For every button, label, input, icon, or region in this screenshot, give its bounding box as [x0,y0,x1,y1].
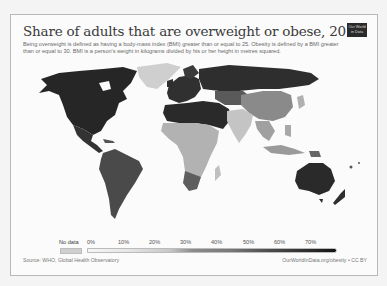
region-south-asia[interactable] [227,109,253,143]
chart-frame: Share of adults that are overweight or o… [10,14,378,276]
legend-tick-60: 60% [274,239,285,245]
region-south-america[interactable] [99,149,143,219]
legend-tick-30: 30% [180,239,191,245]
legend-tick-50: 50% [243,239,254,245]
owid-logo[interactable]: Our World in Data [347,23,367,37]
region-southeast-asia[interactable] [255,121,275,141]
source-note: Source: WHO, Global Health Observatory [23,257,119,263]
legend-color-bar [87,248,337,253]
chart-subtitle: Being overweight is defined as having a … [23,41,341,55]
legend-tick-10: 10% [118,239,129,245]
region-japan[interactable] [297,95,305,109]
legend-no-data-label: No data [59,239,79,245]
credit-link[interactable]: OurWorldInData.org/obesity • CC BY [282,257,367,263]
region-new-zealand[interactable] [333,189,345,205]
region-sub-saharan-africa[interactable] [161,123,219,179]
logo-line-2: in Data [347,30,367,35]
region-europe[interactable] [167,75,201,103]
legend-tick-0: 0% [87,239,95,245]
region-north-america[interactable] [39,67,137,135]
region-australia[interactable] [295,163,335,195]
chart-title: Share of adults that are overweight or o… [23,23,363,39]
legend-tick-40: 40% [211,239,222,245]
legend-tick-70: 70% [305,239,316,245]
legend-tick-20: 20% [149,239,160,245]
legend-no-data-swatch [60,248,82,254]
world-map[interactable] [19,59,371,235]
region-russia[interactable] [199,65,319,91]
